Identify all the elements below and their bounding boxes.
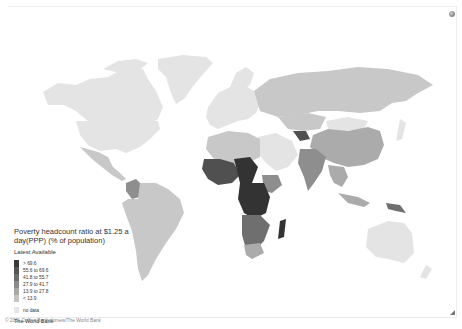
legend-subtitle: Latest Available [14,249,174,255]
region-south-africa[interactable] [244,243,264,259]
region-central-africa[interactable] [238,183,270,219]
legend-label-3: 27.9 to 41.7 [23,281,48,288]
legend-label-0: > 69.6 [23,260,48,267]
region-australia[interactable] [366,221,414,263]
region-indonesia[interactable] [338,193,370,207]
legend-swatch-2 [14,274,19,281]
region-central-sahel[interactable] [234,157,258,183]
region-greenland[interactable] [158,55,213,104]
region-new-zealand[interactable] [420,265,432,279]
legend-label-4: 13.9 to 27.8 [23,288,48,295]
copyright-text: © 2011 Collins Bartholomew/The World Ban… [5,318,101,323]
legend-no-data: no data [14,307,174,313]
legend-swatch-4 [14,288,19,295]
region-southeast-asia[interactable] [328,165,348,187]
region-russia[interactable] [254,67,433,117]
legend-swatch-5 [14,295,19,302]
region-europe[interactable] [206,85,260,129]
legend-label-1: 55.6 to 69.6 [23,267,48,274]
map-panel[interactable]: Poverty headcount ratio at $1.25 a day(P… [8,6,457,318]
legend-label-5: < 13.9 [23,295,48,302]
resize-handle-icon[interactable] [450,310,455,315]
legend-title: Poverty headcount ratio at $1.25 a day(P… [14,227,139,245]
legend-label-2: 41.8 to 55.7 [23,274,48,281]
region-india[interactable] [298,149,326,191]
region-north-africa[interactable] [206,131,260,163]
legend-swatch-1 [14,267,19,274]
region-middle-east[interactable] [258,133,298,171]
region-usa[interactable] [76,121,160,153]
region-japan[interactable] [396,119,406,141]
legend-no-data-label: no data [23,308,39,313]
region-papua-new-guinea[interactable] [386,203,406,213]
legend-labels: > 69.6 55.6 to 69.6 41.8 to 55.7 27.9 to… [23,260,48,302]
legend-scale: > 69.6 55.6 to 69.6 41.8 to 55.7 27.9 to… [14,260,174,302]
legend-no-data-swatch [14,307,19,313]
legend-swatch-3 [14,281,19,288]
legend-swatch-0 [14,260,19,267]
map-legend: Poverty headcount ratio at $1.25 a day(P… [14,227,174,324]
legend-color-bar [14,260,19,302]
globe-icon[interactable] [449,11,455,17]
region-scandinavia[interactable] [230,67,254,89]
region-mexico[interactable] [80,147,126,181]
region-madagascar[interactable] [278,219,286,239]
region-uzbekistan[interactable] [293,131,310,141]
region-canada-alaska[interactable] [43,67,163,125]
